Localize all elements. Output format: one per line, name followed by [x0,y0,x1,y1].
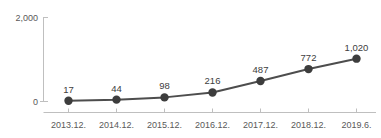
data-point-marker[interactable] [352,54,360,62]
data-point-marker[interactable] [112,95,120,103]
data-value-label: 772 [301,52,317,63]
x-axis-label-4: 2017.12. [243,120,278,130]
x-axis-label-2: 2015.12. [147,120,182,130]
data-value-label: 216 [205,75,221,86]
data-point-marker[interactable] [160,93,168,101]
data-value-label: 487 [253,64,269,75]
data-value-label: 44 [111,83,122,94]
data-point-marker[interactable] [208,88,216,96]
y-tick-label-2000: 2,000 [15,13,38,23]
chart-canvas: 2,000 0 17 44 98 216 487 772 1,020 2013.… [0,0,381,138]
x-axis-label-0: 2013.12. [51,120,86,130]
data-point-marker[interactable] [256,77,264,85]
data-point-marker[interactable] [304,65,312,73]
line-chart: 2,000 0 17 44 98 216 487 772 1,020 2013.… [0,0,381,138]
data-point-marker[interactable] [64,97,72,105]
data-value-label: 98 [159,80,170,91]
x-axis-label-5: 2018.12. [291,120,326,130]
x-axis-label-3: 2016.12. [195,120,230,130]
data-value-label: 17 [63,84,74,95]
y-tick-label-0: 0 [33,97,38,107]
data-value-label: 1,020 [345,42,369,53]
x-axis-label-6: 2019.6. [341,120,371,130]
x-axis-label-1: 2014.12. [99,120,134,130]
